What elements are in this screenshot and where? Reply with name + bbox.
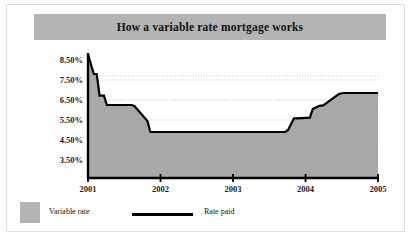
- legend-label-rate-paid: Rate paid: [204, 207, 234, 216]
- chart-legend: Variable rate Rate paid: [20, 202, 400, 226]
- y-axis-tick-labels: 8.50%7.50%6.50%5.50%4.50%3.50%: [60, 55, 83, 165]
- chart-figure: How a variable rate mortgage works 8.50%…: [0, 0, 412, 237]
- legend-line-sample-rate-paid: [132, 213, 193, 216]
- y-axis-tick-label: 4.50%: [60, 135, 83, 145]
- x-axis-tick-label: 2004: [297, 184, 315, 194]
- x-axis-tick-label: 2002: [152, 184, 169, 194]
- variable-rate-area: [88, 54, 378, 178]
- x-axis-tick-labels: 20012002200320042005: [80, 184, 387, 194]
- x-axis-tick-label: 2005: [370, 184, 387, 194]
- x-axis-tick-label: 2001: [80, 184, 97, 194]
- y-axis-tick-label: 6.50%: [60, 95, 83, 105]
- y-axis-tick-label: 3.50%: [60, 155, 83, 165]
- legend-swatch-variable-rate: [20, 202, 40, 223]
- x-axis-tick-label: 2003: [225, 184, 242, 194]
- legend-label-variable-rate: Variable rate: [49, 207, 90, 216]
- y-axis-tick-label: 7.50%: [60, 75, 83, 85]
- y-axis-tick-label: 5.50%: [60, 115, 83, 125]
- y-axis-tick-label: 8.50%: [60, 55, 83, 65]
